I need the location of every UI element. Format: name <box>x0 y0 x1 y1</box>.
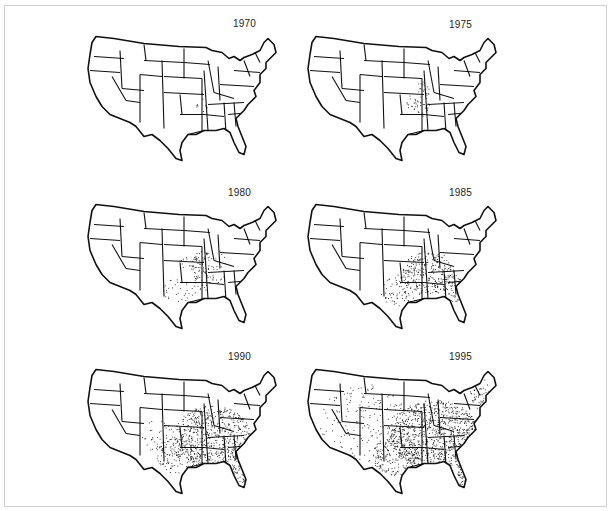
us-map-icon <box>84 28 284 173</box>
map-panel-1975: 1975 <box>304 14 524 174</box>
map-panel-1980: 1980 <box>84 182 304 342</box>
map-panel-1970: 1970 <box>84 14 304 174</box>
us-map-icon <box>84 361 284 506</box>
map-panel-1990: 1990 <box>84 347 304 507</box>
us-map-icon <box>84 196 284 341</box>
us-map-icon <box>304 361 504 506</box>
us-map-icon <box>304 196 504 341</box>
map-panel-1995: 1995 <box>304 347 524 507</box>
us-map-icon <box>304 28 504 173</box>
map-panel-1985: 1985 <box>304 182 524 342</box>
